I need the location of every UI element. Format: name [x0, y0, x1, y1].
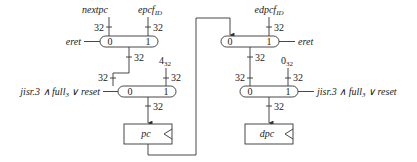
jisr-select-label: jisr.3 ∧ full3 ∨ reset: [315, 86, 397, 99]
jisr-select-label: jisr.3 ∧ full3 ∨ reset: [18, 86, 100, 99]
width-label: 32: [94, 22, 104, 33]
mux-port-0: 0: [108, 36, 113, 47]
width-label: 32: [274, 22, 284, 33]
const-0-label: 032: [281, 55, 294, 68]
width-label: 32: [274, 101, 284, 112]
mux-port-1: 1: [286, 86, 291, 97]
left-pc-path: nextpc epcfID 32 32 0 1 eret 32 32 432 3…: [18, 4, 230, 155]
mux-port-0: 0: [128, 86, 133, 97]
mux-port-1: 1: [164, 86, 169, 97]
width-label: 32: [171, 72, 181, 83]
mux-port-0: 0: [228, 36, 233, 47]
width-label: 32: [255, 52, 265, 63]
dpc-register-label: dpc: [260, 128, 275, 139]
width-label: 32: [134, 52, 144, 63]
mux-port-0: 0: [248, 86, 253, 97]
epcf-id-label: epcfID: [138, 4, 162, 17]
width-label: 32: [235, 72, 245, 83]
width-label: 32: [293, 72, 303, 83]
width-label: 32: [153, 101, 163, 112]
mux-port-1: 1: [267, 36, 272, 47]
right-dpc-path: edpcfID 32 0 1 eret 32 32 032 32 0 1 jis…: [221, 4, 397, 144]
nextpc-label: nextpc: [82, 4, 109, 15]
mux-port-1: 1: [146, 36, 151, 47]
width-label: 32: [153, 22, 163, 33]
edpcf-id-label: edpcfID: [254, 4, 283, 17]
eret-label: eret: [66, 36, 81, 47]
width-label: 32: [98, 72, 108, 83]
const-4-label: 432: [159, 55, 172, 68]
eret-label: eret: [298, 36, 313, 47]
pc-register-label: pc: [140, 128, 151, 139]
pc-dpc-datapath-diagram: nextpc epcfID 32 32 0 1 eret 32 32 432 3…: [0, 0, 417, 162]
